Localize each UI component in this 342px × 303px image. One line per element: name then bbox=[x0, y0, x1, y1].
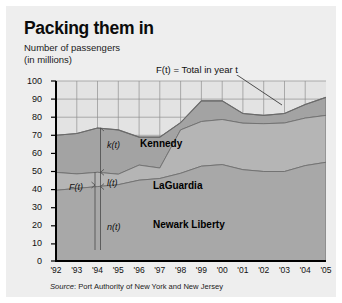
newark-function-label: n(t) bbox=[107, 222, 121, 232]
page-title: Packing them in bbox=[24, 18, 154, 39]
y-tick-label: 10 bbox=[20, 238, 42, 248]
chart-subtitle-line2: (in millions) bbox=[24, 54, 72, 65]
band-label-newark: Newark Liberty bbox=[153, 219, 225, 230]
chart-plot-area bbox=[50, 75, 326, 262]
chart-svg bbox=[50, 75, 326, 262]
chart-card: Packing them in Number of passengers (in… bbox=[6, 6, 336, 297]
y-tick-label: 80 bbox=[20, 112, 42, 122]
y-tick-label: 50 bbox=[20, 166, 42, 176]
y-tick-label: 20 bbox=[20, 220, 42, 230]
y-tick-label: 60 bbox=[20, 148, 42, 158]
kennedy-function-label: k(t) bbox=[107, 140, 120, 150]
y-tick-label: 40 bbox=[20, 184, 42, 194]
band-label-laguardia: LaGuardia bbox=[153, 180, 202, 191]
total-function-label: F(t) bbox=[69, 182, 83, 192]
x-tick-label: '05 bbox=[314, 265, 338, 275]
chart-subtitle-line1: Number of passengers bbox=[24, 42, 120, 53]
source-note: Source: Port Authority of New York and N… bbox=[50, 282, 223, 291]
laguardia-function-label: l(t) bbox=[107, 178, 118, 188]
band-label-kennedy: Kennedy bbox=[140, 138, 182, 149]
y-tick-label: 100 bbox=[20, 76, 42, 86]
y-tick-label: 70 bbox=[20, 130, 42, 140]
y-tick-label: 30 bbox=[20, 202, 42, 212]
total-annotation-label: F(t) = Total in year t bbox=[156, 64, 238, 75]
y-tick-label: 0 bbox=[20, 256, 42, 266]
y-tick-label: 90 bbox=[20, 94, 42, 104]
